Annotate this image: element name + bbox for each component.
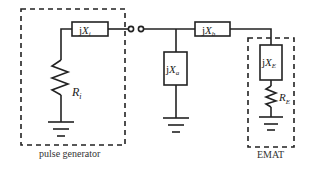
wire-xb-xe: [230, 29, 271, 45]
caption-emat: EMAT: [257, 149, 284, 160]
resistor-ri: [52, 60, 68, 95]
ground-icon: [259, 117, 283, 130]
resistor-re: [266, 86, 276, 107]
label-re: RE: [278, 91, 291, 106]
circuit-diagram: jXi Ri jXb jXa jXE RE pulse generator EM…: [0, 0, 311, 170]
caption-pulse-generator: pulse generator: [39, 148, 101, 159]
label-ri: Ri: [71, 85, 82, 101]
wire-ri-to-xi: [61, 29, 72, 60]
ground-icon: [48, 122, 74, 136]
terminal-right: [138, 26, 143, 31]
ground-icon: [163, 118, 189, 132]
terminal-left: [128, 26, 133, 31]
